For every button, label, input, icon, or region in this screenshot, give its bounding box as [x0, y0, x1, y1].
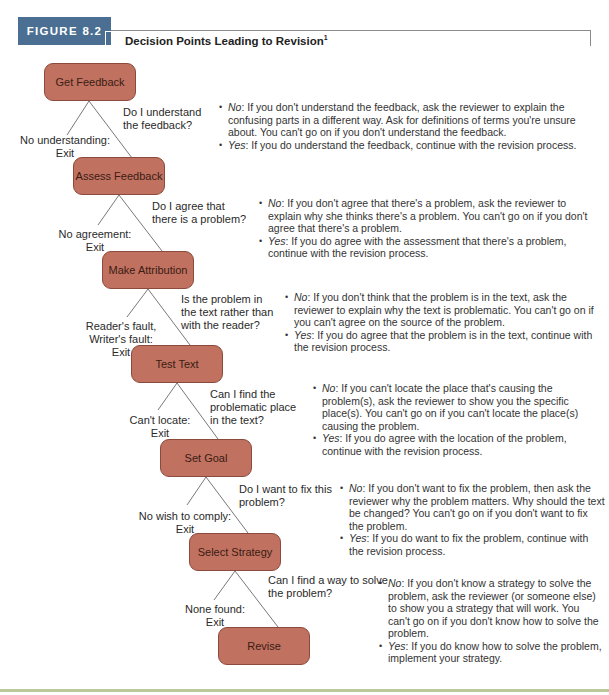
decision-question: Is the problem in the text rather than w…: [181, 293, 276, 332]
step-explanation: No: If you don't think that the problem …: [285, 291, 600, 354]
decision-question: Do I want to fix this problem?: [239, 483, 334, 509]
no-bullet: No: If you don't agree that there's a pr…: [259, 197, 594, 235]
node-revise: Revise: [218, 627, 310, 665]
exit-label: No agreement: Exit: [40, 228, 150, 254]
step-explanation: No: If you can't locate the place that's…: [313, 382, 603, 457]
no-bullet: No: If you don't know a strategy to solv…: [379, 577, 604, 640]
exit-label: None found: Exit: [165, 603, 265, 629]
decision-question: Do I understand the feedback?: [123, 106, 218, 132]
exit-label: Can't locate: Exit: [105, 414, 215, 440]
exit-text: Exit: [10, 147, 120, 160]
step-explanation: No: If you don't know a strategy to solv…: [379, 577, 604, 665]
exit-label: Reader's fault, Writer's fault: Exit: [66, 320, 176, 359]
decision-question: Can I find a way to solve the problem?: [268, 574, 388, 600]
exit-reason: No agreement:: [40, 228, 150, 241]
exit-text: Exit: [40, 241, 150, 254]
yes-bullet: Yes: If you do agree that the problem is…: [285, 329, 600, 354]
yes-bullet: Yes: If you do know how to solve the pro…: [379, 640, 604, 665]
step-explanation: No: If you don't want to fix the problem…: [340, 482, 605, 557]
exit-label: No wish to comply: Exit: [120, 510, 250, 536]
no-bullet: No: If you don't think that the problem …: [285, 291, 600, 329]
node-select-strategy: Select Strategy: [189, 533, 281, 571]
yes-bullet: Yes: If you do agree with the assessment…: [259, 235, 594, 260]
exit-label: No understanding: Exit: [10, 134, 120, 160]
node-set-goal: Set Goal: [160, 439, 252, 477]
yes-bullet: Yes: If you do agree with the location o…: [313, 432, 603, 457]
step-explanation: No: If you don't agree that there's a pr…: [259, 197, 594, 260]
no-bullet: No: If you can't locate the place that's…: [313, 382, 603, 432]
exit-reason: No understanding:: [10, 134, 120, 147]
no-bullet: No: If you don't want to fix the problem…: [340, 482, 605, 532]
yes-bullet: Yes: If you do want to fix the problem, …: [340, 532, 605, 557]
exit-text: Exit: [66, 346, 176, 359]
node-get-feedback: Get Feedback: [44, 63, 136, 101]
step-explanation: No: If you don't understand the feedback…: [219, 101, 599, 151]
exit-reason: Can't locate:: [105, 414, 215, 427]
node-make-attribution: Make Attribution: [102, 251, 194, 289]
exit-reason: None found:: [165, 603, 265, 616]
no-bullet: No: If you don't understand the feedback…: [219, 101, 599, 139]
exit-text: Exit: [165, 616, 265, 629]
decision-question: Do I agree that there is a problem?: [152, 200, 247, 226]
decision-question: Can I find the problematic place in the …: [210, 388, 305, 427]
yes-bullet: Yes: If you do understand the feedback, …: [219, 139, 599, 152]
exit-reason: Reader's fault, Writer's fault:: [66, 320, 176, 346]
exit-text: Exit: [105, 427, 215, 440]
bottom-rule: [0, 689, 609, 692]
exit-text: Exit: [120, 523, 250, 536]
node-assess-feedback: Assess Feedback: [73, 157, 165, 195]
exit-reason: No wish to comply:: [120, 510, 250, 523]
